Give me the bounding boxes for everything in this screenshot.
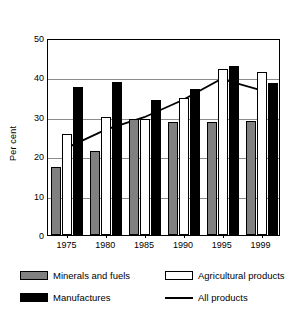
y-axis-tick-labels: 01020304050 [24, 33, 44, 243]
plot-area [47, 39, 280, 236]
bar-manufactures [229, 66, 239, 235]
legend-entry: Manufactures [20, 290, 111, 304]
y-axis-tick-label: 50 [24, 34, 44, 44]
chart-legend: Minerals and fuelsAgricultural productsM… [20, 268, 282, 310]
legend-entry: Agricultural products [165, 268, 285, 282]
x-axis-tick-label: 1980 [95, 240, 115, 250]
x-axis-tickmark [145, 235, 146, 238]
bar-manufactures [268, 83, 278, 235]
bar-manufactures [73, 87, 83, 235]
bar-agricultural [101, 117, 111, 235]
y-axis-tick-label: 0 [24, 231, 44, 241]
bar-minerals [246, 121, 256, 235]
bar-manufactures [112, 82, 122, 235]
bar-manufactures [190, 89, 200, 235]
bar-minerals [207, 122, 217, 235]
bar-minerals [90, 151, 100, 235]
bar-minerals [129, 119, 139, 235]
y-axis-tick-label: 10 [24, 192, 44, 202]
bar-agricultural [62, 134, 72, 235]
y-axis-title: Per cent [8, 108, 22, 178]
bar-agricultural [179, 98, 189, 236]
legend-label: All products [198, 292, 248, 303]
y-axis-tick-label: 40 [24, 73, 44, 83]
x-axis-tickmark [223, 235, 224, 238]
x-axis-tickmark [262, 235, 263, 238]
x-axis-tickmark [67, 235, 68, 238]
legend-label: Minerals and fuels [53, 270, 130, 281]
bar-agricultural [218, 69, 228, 235]
x-axis-tick-label: 1995 [212, 240, 232, 250]
bar-agricultural [140, 119, 150, 235]
plot-wrapper: Per cent 01020304050 1975198019851990199… [0, 0, 298, 266]
x-axis-tick-labels: 197519801985199019951999 [47, 240, 280, 254]
legend-entry: All products [165, 290, 248, 304]
y-axis-tick-label: 30 [24, 113, 44, 123]
legend-swatch-agricultural [165, 271, 193, 280]
x-axis-tick-label: 1999 [251, 240, 271, 250]
legend-label: Agricultural products [198, 270, 285, 281]
legend-swatch-line [165, 293, 193, 302]
x-axis-tickmark [106, 235, 107, 238]
legend-label: Manufactures [53, 292, 111, 303]
x-axis-tick-label: 1990 [173, 240, 193, 250]
bar-minerals [168, 122, 178, 235]
bar-agricultural [257, 72, 267, 236]
y-axis-tick-label: 20 [24, 152, 44, 162]
x-axis-tickmark [184, 235, 185, 238]
legend-swatch-manufactures [20, 293, 48, 302]
chart-figure: Per cent 01020304050 1975198019851990199… [0, 0, 298, 314]
x-axis-tick-label: 1985 [134, 240, 154, 250]
legend-entry: Minerals and fuels [20, 268, 130, 282]
bar-minerals [51, 167, 61, 235]
legend-swatch-minerals [20, 271, 48, 280]
x-axis-tick-label: 1975 [56, 240, 76, 250]
bar-manufactures [151, 100, 161, 235]
